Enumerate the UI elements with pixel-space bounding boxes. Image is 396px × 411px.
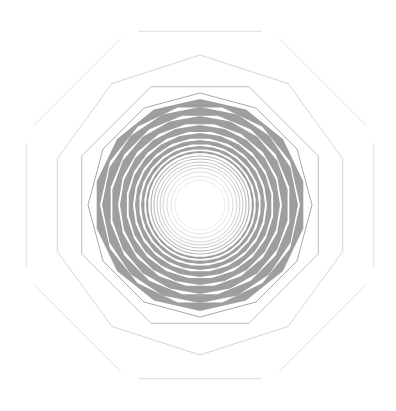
background bbox=[0, 0, 396, 411]
concentric-polygon-artwork bbox=[0, 0, 396, 411]
